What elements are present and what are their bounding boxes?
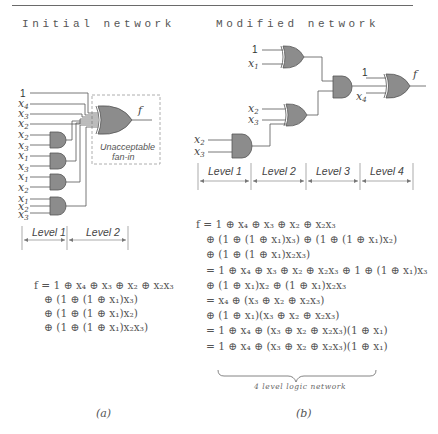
caption-a: (a) bbox=[96, 407, 111, 420]
svg-text:1: 1 bbox=[362, 67, 368, 78]
equation-left: f = 1 ⊕ x₄ ⊕ x₃ ⊕ x₂ ⊕ x₂x₃ ⊕ (1 ⊕ (1 ⊕ … bbox=[34, 278, 174, 334]
underbrace bbox=[218, 370, 376, 382]
svg-text:x3: x3 bbox=[194, 145, 205, 159]
svg-text:x1: x1 bbox=[248, 57, 259, 71]
output-f-left: f bbox=[137, 104, 144, 117]
or-gate-a bbox=[283, 46, 304, 68]
svg-text:x4: x4 bbox=[356, 90, 367, 104]
level-2-label-left: Level 2 bbox=[86, 226, 120, 238]
and-gate-l1-a bbox=[50, 132, 66, 148]
and-gate-mid bbox=[333, 76, 352, 98]
level-3-label-right: Level 3 bbox=[316, 165, 350, 177]
level-4-label-right: Level 4 bbox=[370, 165, 404, 177]
xor-gate-big bbox=[98, 106, 132, 134]
equation-right: f = 1 ⊕ x₄ ⊕ x₃ ⊕ x₂ ⊕ x₂x₃ ⊕ (1 ⊕ (1 ⊕ … bbox=[196, 217, 428, 354]
xor-gate-final bbox=[386, 74, 410, 98]
output-f-right: f bbox=[412, 68, 419, 81]
brace-annotation: 4 level logic network bbox=[254, 382, 346, 391]
caption-b: (b) bbox=[296, 407, 312, 420]
annotation-fanin: fan-in bbox=[112, 152, 135, 162]
level-1-label-left: Level 1 bbox=[32, 226, 66, 238]
left-input-labels: 1 x4 x3 x2 x2 x3 x1 x3 x1 x2 x1 x2 x3 bbox=[18, 88, 29, 222]
and-gate-l1-c bbox=[50, 174, 66, 190]
initial-network-diagram: 1 x4 x3 x2 x2 x3 x1 x3 x1 x2 x1 x2 x3 bbox=[18, 88, 160, 250]
and-gate-l1-d bbox=[50, 197, 66, 215]
svg-text:1: 1 bbox=[252, 44, 258, 55]
and-gate-c bbox=[232, 134, 252, 158]
or-gate-b bbox=[286, 104, 307, 126]
level-1-label-right: Level 1 bbox=[208, 165, 242, 177]
annotation-unacceptable: Unacceptable bbox=[100, 142, 155, 152]
level-2-label-right: Level 2 bbox=[262, 165, 296, 177]
and-gate-l1-b bbox=[50, 153, 66, 169]
